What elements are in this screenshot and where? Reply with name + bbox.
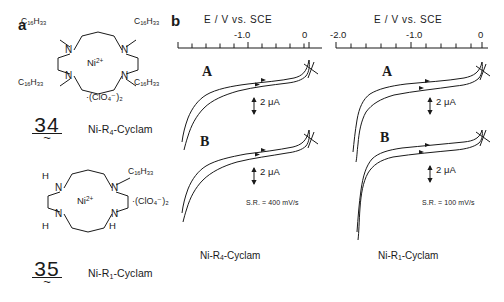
cv-plot-right: E / V vs. SCE -2.0 -1.0 0 [330, 10, 500, 280]
counter-ion-label: ·(ClO₄⁻)₂ [132, 196, 169, 206]
hydrogen-atom-label: H [109, 220, 116, 231]
hydrogen-atom-label: H [42, 220, 49, 231]
cv-axes-and-traces-right: A B [330, 42, 500, 272]
nitrogen-atom-label: N [55, 208, 62, 219]
metal-center-label: Ni2+ [87, 57, 103, 68]
counter-ion-label: ·(ClO₄⁻)₂ [86, 92, 123, 102]
nitrogen-atom-label: N [65, 70, 72, 81]
figure-root: a N N N N Ni2+ C16H33 C16H33 C16H33 C16H… [0, 0, 504, 302]
scan-rate-right: S.R. = 100 mV/s [422, 199, 475, 206]
scale-bar-right-A [427, 97, 432, 115]
axis-title-right: E / V vs. SCE [374, 14, 442, 25]
tilde-mark: ~ [43, 279, 51, 285]
substituent-label-c16h33: C16H33 [128, 166, 153, 176]
tick-label-right-1: -1.0 [406, 29, 422, 40]
caption-right: Ni-R1-Cyclam [378, 250, 438, 261]
caption-left: Ni-R4-Cyclam [200, 250, 260, 261]
substituent-label-c16h33: C16H33 [21, 16, 46, 26]
scale-bar-label-right-A: 2 μA [436, 96, 456, 107]
scan-rate-left: S.R. = 400 mV/s [246, 199, 299, 206]
cv-plot-left: E / V vs. SCE -1.0 0 [176, 10, 326, 280]
trace-label-B-left: B [200, 134, 209, 149]
scale-bar-right-B [427, 165, 432, 183]
axis-title-left: E / V vs. SCE [204, 14, 272, 25]
structure-name-ni-r1-cyclam: Ni-R1-Cyclam [88, 267, 153, 281]
tilde-mark: ~ [43, 135, 51, 141]
nitrogen-atom-label: N [111, 208, 118, 219]
scale-bar-left-B [251, 167, 256, 185]
hydrogen-atom-label: H [42, 170, 49, 181]
scale-bar-label-left-A: 2 μA [260, 96, 280, 107]
compound-number-34: 34 ~ [32, 114, 62, 141]
compound-number-35: 35 ~ [32, 258, 62, 285]
substituent-label-c16h33: C16H33 [134, 16, 159, 26]
trace-label-B-right: B [380, 130, 389, 145]
scale-bar-label-left-B: 2 μA [260, 166, 280, 177]
scale-bar-left-A [251, 97, 256, 115]
substituent-label-c16h33: C16H33 [134, 77, 159, 87]
tick-label-right-0: -2.0 [330, 29, 346, 40]
trace-label-A-left: A [202, 64, 213, 79]
scale-bar-label-right-B: 2 μA [436, 164, 456, 175]
nitrogen-atom-label: N [65, 44, 72, 55]
structure-ni-r1-cyclam: N N N N Ni2+ H H H C16H33 [40, 160, 175, 255]
tick-label-left-0: -1.0 [234, 29, 250, 40]
nitrogen-atom-label: N [55, 182, 62, 193]
tick-label-left-1: 0 [302, 29, 307, 40]
cv-axes-and-traces-left: A B [176, 42, 326, 272]
structure-name-ni-r4-cyclam: Ni-R4-Cyclam [88, 123, 153, 137]
nitrogen-atom-label: N [121, 70, 128, 81]
nitrogen-atom-label: N [121, 44, 128, 55]
substituent-label-c16h33: C16H33 [18, 77, 43, 87]
metal-center-label: Ni2+ [77, 195, 93, 206]
nitrogen-atom-label: N [111, 182, 118, 193]
trace-label-A-right: A [382, 64, 393, 79]
tick-label-right-2: 0 [478, 29, 483, 40]
